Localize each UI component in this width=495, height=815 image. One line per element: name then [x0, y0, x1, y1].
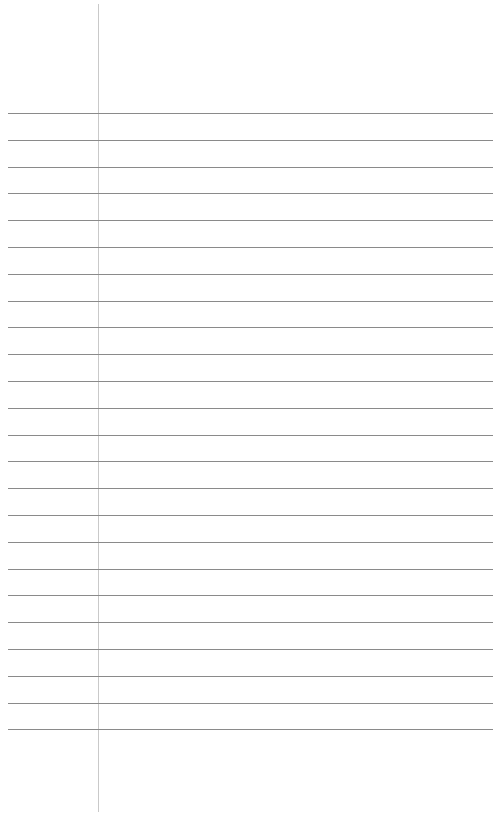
ruled-line: [8, 595, 493, 596]
ruled-line: [8, 301, 493, 302]
ruled-line: [8, 729, 493, 730]
ruled-line: [8, 703, 493, 704]
ruled-line: [8, 622, 493, 623]
ruled-line: [8, 247, 493, 248]
ruled-line: [8, 515, 493, 516]
ruled-line: [8, 220, 493, 221]
ruled-line: [8, 569, 493, 570]
ruled-line: [8, 113, 493, 114]
ruled-line: [8, 676, 493, 677]
ruled-line: [8, 193, 493, 194]
ruled-line: [8, 140, 493, 141]
ruled-line: [8, 461, 493, 462]
ruled-line: [8, 649, 493, 650]
ruled-line: [8, 274, 493, 275]
ruled-line: [8, 408, 493, 409]
ruled-line: [8, 435, 493, 436]
lined-paper-sheet: [0, 0, 495, 815]
ruled-line: [8, 381, 493, 382]
ruled-line: [8, 354, 493, 355]
ruled-line: [8, 327, 493, 328]
ruled-line: [8, 542, 493, 543]
ruled-line: [8, 488, 493, 489]
ruled-line: [8, 167, 493, 168]
